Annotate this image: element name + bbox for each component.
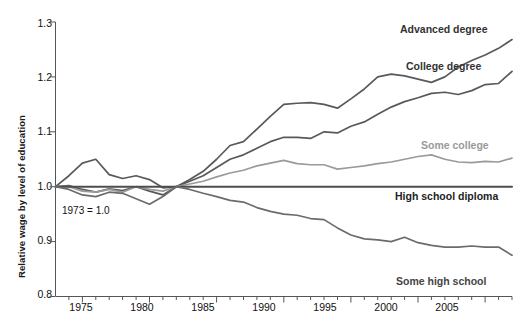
series-label-high-school-diploma: High school diploma [395,190,498,202]
x-tick-marks-major [82,297,485,303]
series-line-college-degree [56,71,513,195]
series-label-some-high-school: Some high school [396,275,486,287]
y-tick-marks [50,22,56,297]
x-tick-marks-minor [69,297,512,301]
series-label-college-degree: College degree [406,60,481,72]
chart-container: Relative wage by level of education 1.3 … [0,0,522,336]
series-label-some-college: Some college [421,139,489,151]
series-label-advanced-degree: Advanced degree [400,23,488,35]
